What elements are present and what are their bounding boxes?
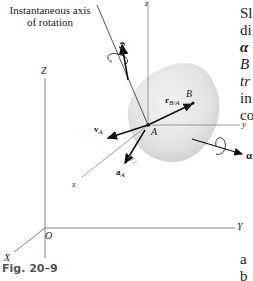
instantaneous-axis xyxy=(97,5,148,125)
body-x-axis xyxy=(82,125,148,177)
point-b-label: B xyxy=(186,89,192,99)
side-line-6: in xyxy=(240,90,253,107)
point-b xyxy=(191,101,194,104)
clipped-body-text: Sl di α B tr in co xyxy=(240,5,253,124)
v-a-label: vA xyxy=(94,125,103,136)
instantaneous-axis-label: Instantaneous axis of rotation xyxy=(0,4,100,28)
a-a-label: aA xyxy=(116,168,125,179)
side-line-3: α xyxy=(240,39,253,56)
side-line-1: Sl xyxy=(240,5,253,22)
fixed-x-axis xyxy=(14,228,45,252)
r-ba-label: rB/A xyxy=(165,96,180,107)
side-line-5: tr xyxy=(240,73,253,90)
figure-caption: Fig. 20–9 xyxy=(2,262,58,275)
a-subscript: A xyxy=(121,171,125,179)
side-line-7: co xyxy=(240,107,253,124)
r-subscript: B/A xyxy=(169,99,180,107)
origin-label: O xyxy=(45,231,52,241)
alpha-label: α xyxy=(246,150,252,161)
figure-page: Instantaneous axis of rotation Z Y X O z… xyxy=(0,0,253,281)
body-x-label: x xyxy=(72,181,76,189)
bottom-line-1: a xyxy=(240,251,248,268)
side-line-2: di xyxy=(240,22,253,39)
v-subscript: A xyxy=(99,128,103,136)
bottom-line-2: b xyxy=(240,268,248,281)
point-a-label: A xyxy=(151,127,157,137)
annotation-line-2: of rotation xyxy=(0,16,100,28)
side-line-4: B xyxy=(240,56,253,73)
fixed-y-label: Y xyxy=(237,222,243,232)
fixed-z-label: Z xyxy=(41,66,47,76)
body-z-label: z xyxy=(145,0,148,8)
clipped-bottom-text: a b xyxy=(240,251,248,281)
annotation-line-1: Instantaneous axis xyxy=(0,4,100,16)
